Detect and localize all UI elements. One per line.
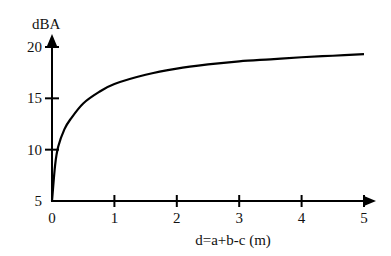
axes — [47, 34, 376, 206]
x-ticks: 012345 — [48, 195, 368, 226]
x-tick-label: 5 — [360, 210, 368, 226]
x-tick-label: 0 — [48, 210, 56, 226]
x-tick-label: 2 — [173, 210, 181, 226]
y-axis-arrow-icon — [47, 34, 57, 46]
x-axis-label: d=a+b-c (m) — [195, 232, 271, 249]
y-tick-label: 20 — [27, 39, 42, 55]
chart: 5101520 012345 dBA d=a+b-c (m) — [0, 0, 391, 256]
data-curve — [52, 54, 364, 201]
x-tick-label: 1 — [111, 210, 119, 226]
y-tick-label: 5 — [35, 193, 43, 209]
y-tick-label: 10 — [27, 142, 42, 158]
y-axis-label: dBA — [32, 16, 61, 32]
x-axis-arrow-icon — [364, 196, 376, 206]
y-tick-label: 15 — [27, 90, 42, 106]
x-tick-label: 4 — [298, 210, 306, 226]
x-tick-label: 3 — [235, 210, 243, 226]
